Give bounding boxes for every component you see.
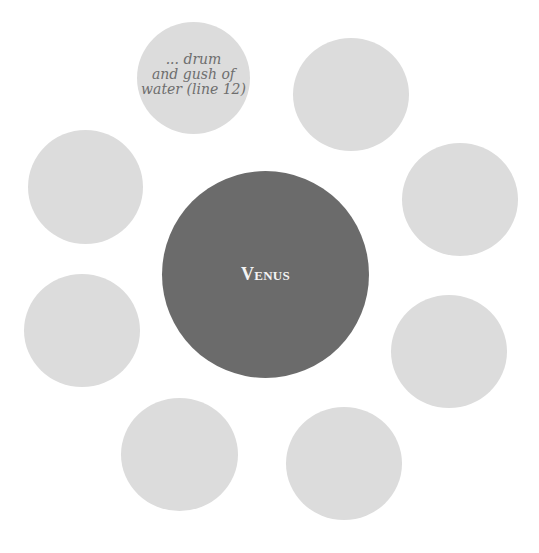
center-node: Venus xyxy=(162,171,369,378)
node-left-upper xyxy=(28,130,143,244)
node-note-text: ... drum and gush of water (line 12) xyxy=(141,52,246,97)
node-bottom-right xyxy=(286,407,402,520)
node-right-upper xyxy=(402,143,518,256)
center-label: Venus xyxy=(241,264,290,285)
note-line-1: ... drum xyxy=(141,52,246,67)
node-bottom-left xyxy=(121,398,238,511)
node-right-lower xyxy=(391,295,507,408)
note-line-2: and gush of xyxy=(141,67,246,82)
node-left-lower xyxy=(24,274,140,387)
node-top-right xyxy=(293,38,409,151)
note-line-3: water (line 12) xyxy=(141,82,246,97)
node-top-left: ... drum and gush of water (line 12) xyxy=(137,22,250,134)
